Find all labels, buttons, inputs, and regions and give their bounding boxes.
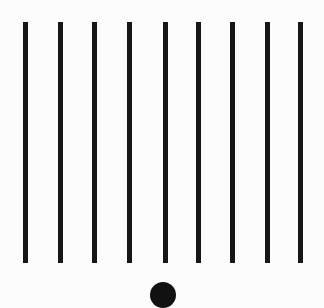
vertical-bar bbox=[230, 22, 235, 263]
circle-shape bbox=[150, 282, 176, 308]
vertical-bar bbox=[298, 22, 303, 263]
vertical-bar bbox=[265, 22, 270, 263]
vertical-bar bbox=[196, 22, 201, 263]
vertical-bar bbox=[163, 22, 168, 263]
vertical-bar bbox=[23, 22, 28, 263]
vertical-bar bbox=[127, 22, 132, 263]
vertical-bar bbox=[92, 22, 97, 263]
vertical-bar bbox=[58, 22, 63, 263]
